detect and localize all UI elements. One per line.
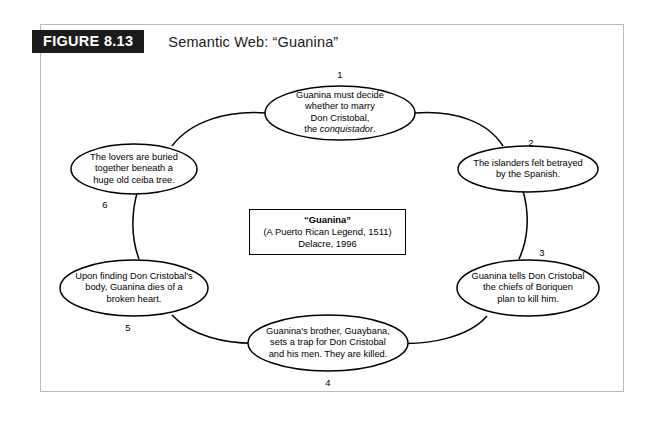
node-4-line-3: and his men. They are killed. bbox=[266, 349, 390, 360]
node-3-line-1: Guanina tells Don Cristobal bbox=[471, 271, 584, 282]
node-label-6: The lovers are buried together beneath a… bbox=[90, 152, 178, 186]
node-label-3: Guanina tells Don Cristobal the chiefs o… bbox=[471, 271, 584, 305]
node-3-line-3: plan to kill him. bbox=[471, 294, 584, 305]
figure-number-tag: FIGURE 8.13 bbox=[32, 30, 144, 53]
node-5-line-2: body, Guanina dies of a bbox=[75, 282, 193, 293]
node-4-line-2: sets a trap for Don Cristobal bbox=[266, 337, 390, 348]
node-6-line-3: huge old ceiba tree. bbox=[90, 175, 178, 186]
node-3-line-2: the chiefs of Boriquen bbox=[471, 282, 584, 293]
node-number-6: 6 bbox=[102, 199, 107, 210]
center-box-source: Delacre, 1996 bbox=[298, 238, 356, 250]
node-number-1: 1 bbox=[337, 69, 342, 80]
node-1-line-3: Don Cristobal, bbox=[296, 113, 384, 124]
figure-title: Semantic Web: “Guanina” bbox=[168, 34, 338, 50]
center-box-subtitle: (A Puerto Rican Legend, 1511) bbox=[263, 226, 391, 238]
figure-caption: FIGURE 8.13 Semantic Web: “Guanina” bbox=[32, 30, 338, 53]
node-1-line-2: whether to marry bbox=[296, 102, 384, 113]
figure-root: FIGURE 8.13 Semantic Web: “Guanina” bbox=[0, 0, 657, 425]
node-label-1: Guanina must decide whether to marry Don… bbox=[296, 90, 384, 136]
node-1-line-1: Guanina must decide bbox=[296, 90, 384, 101]
node-label-2: The islanders felt betrayed by the Spani… bbox=[473, 158, 583, 181]
node-label-4: Guanina's brother, Guaybana, sets a trap… bbox=[266, 326, 390, 360]
node-1-italic-word: conquistador bbox=[320, 124, 373, 134]
node-5-line-1: Upon finding Don Cristobal's bbox=[75, 271, 193, 282]
node-1-line-4: the conquistador. bbox=[296, 124, 384, 135]
node-2-line-1: The islanders felt betrayed bbox=[473, 158, 583, 169]
node-number-4: 4 bbox=[325, 377, 330, 388]
connector-2-3 bbox=[519, 191, 527, 259]
node-4-line-1: Guanina's brother, Guaybana, bbox=[266, 326, 390, 337]
node-6-line-2: together beneath a bbox=[90, 163, 178, 174]
node-number-3: 3 bbox=[539, 247, 544, 258]
node-2-line-2: by the Spanish. bbox=[473, 169, 583, 180]
node-6-line-1: The lovers are buried bbox=[90, 152, 178, 163]
connector-1-2 bbox=[415, 113, 503, 146]
node-5-line-3: broken heart. bbox=[75, 294, 193, 305]
node-number-2: 2 bbox=[528, 137, 533, 148]
connector-6-1 bbox=[172, 113, 266, 146]
node-number-5: 5 bbox=[125, 322, 130, 333]
node-label-5: Upon finding Don Cristobal's body, Guani… bbox=[75, 271, 193, 305]
center-box-title: “Guanina” bbox=[304, 214, 351, 226]
connector-5-6 bbox=[133, 190, 139, 259]
center-topic-box: “Guanina” (A Puerto Rican Legend, 1511) … bbox=[249, 209, 406, 255]
